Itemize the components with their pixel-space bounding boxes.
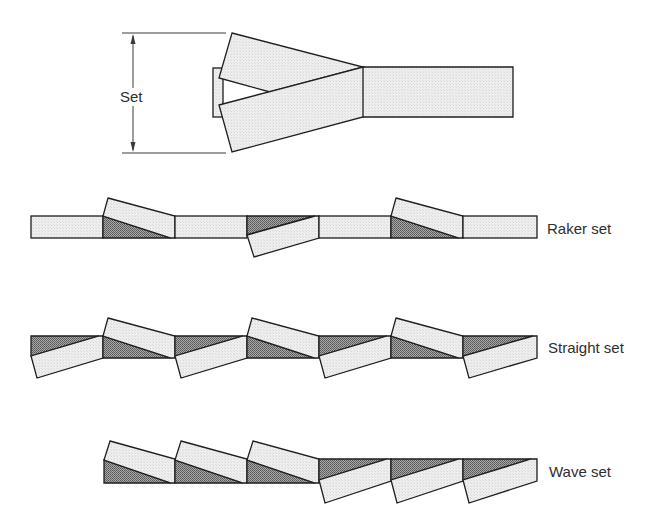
arrowhead-down-icon — [131, 142, 136, 152]
raker-set-label: Raker set — [547, 221, 611, 236]
set-dimension-figure — [122, 33, 513, 153]
tooth-straight — [31, 216, 103, 238]
tooth-straight — [175, 216, 247, 238]
tooth-straight — [319, 216, 391, 238]
set-dimension-label: Set — [120, 89, 143, 104]
wave-set-row — [104, 441, 537, 503]
tooth-straight — [463, 216, 537, 238]
straight-set-label: Straight set — [548, 340, 624, 355]
raker-set-row — [31, 198, 537, 257]
saw-set-diagram — [0, 0, 669, 524]
wave-set-label: Wave set — [549, 464, 611, 479]
arrowhead-up-icon — [131, 34, 136, 44]
straight-set-row — [31, 318, 537, 378]
